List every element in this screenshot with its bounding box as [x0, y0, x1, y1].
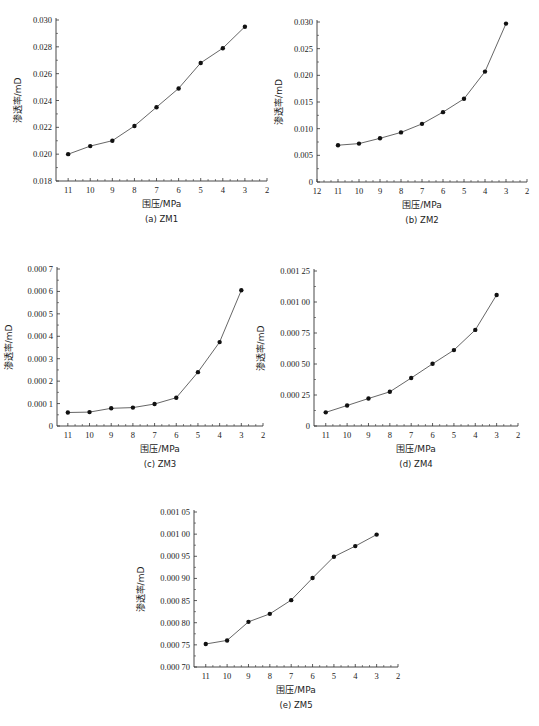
data-point	[289, 598, 293, 602]
x-tick-label: 7	[152, 430, 156, 440]
chart-caption: (d) ZM4	[399, 459, 432, 469]
chart-caption: (a) ZM1	[145, 214, 178, 224]
data-point	[504, 21, 508, 25]
y-tick-label: 0.030	[294, 17, 313, 27]
data-point	[399, 130, 403, 134]
x-tick-label: 4	[483, 186, 488, 196]
x-tick-label: 8	[268, 671, 272, 681]
x-tick-label: 3	[495, 430, 499, 440]
data-point	[217, 340, 221, 344]
data-point	[310, 576, 314, 580]
x-tick-label: 2	[261, 430, 265, 440]
x-tick-label: 9	[366, 430, 370, 440]
y-tick-label: 0.024	[33, 96, 53, 106]
x-tick-label: 8	[388, 430, 392, 440]
series-line	[68, 27, 245, 155]
chart-d: 00.000 250.000 500.000 750.001 000.001 2…	[255, 266, 520, 469]
y-tick-label: 0.026	[33, 69, 52, 79]
data-point	[88, 144, 92, 148]
x-axis-title: 围压/MPa	[276, 685, 315, 695]
x-tick-label: 11	[64, 430, 72, 440]
x-axis-title: 围压/MPa	[140, 444, 179, 454]
data-point	[441, 110, 445, 114]
x-tick-label: 2	[265, 185, 269, 195]
series-line	[326, 295, 497, 413]
x-tick-label: 6	[441, 186, 445, 196]
y-tick-label: 0	[306, 421, 310, 431]
x-tick-label: 4	[221, 185, 226, 195]
y-axis-title: 渗透率/mD	[3, 325, 14, 371]
data-point	[221, 46, 225, 50]
data-point	[378, 136, 382, 140]
data-point	[199, 61, 203, 65]
y-tick-label: 0	[49, 421, 53, 431]
data-point	[66, 152, 70, 156]
y-axis-title: 渗透率/mD	[135, 567, 146, 613]
data-point	[452, 348, 456, 352]
y-tick-label: 0.000 5	[28, 309, 54, 319]
y-axis-title: 渗透率/mD	[255, 326, 266, 372]
x-tick-label: 5	[452, 430, 456, 440]
x-tick-label: 3	[243, 185, 247, 195]
data-point	[246, 620, 250, 624]
x-tick-label: 12	[313, 186, 322, 196]
data-point	[357, 141, 361, 145]
y-tick-label: 0.001 05	[160, 507, 190, 517]
x-tick-label: 10	[223, 671, 232, 681]
data-point	[409, 376, 413, 380]
x-tick-label: 9	[109, 430, 113, 440]
x-tick-label: 11	[202, 671, 210, 681]
y-tick-label: 0.000 80	[160, 618, 190, 628]
y-tick-label: 0.000 95	[160, 551, 190, 561]
series-line	[206, 535, 377, 644]
x-tick-label: 11	[64, 185, 72, 195]
x-tick-label: 6	[430, 430, 434, 440]
data-point	[110, 139, 114, 143]
chart-caption: (e) ZM5	[279, 700, 312, 710]
x-tick-label: 3	[375, 671, 379, 681]
data-point	[388, 390, 392, 394]
x-tick-label: 8	[131, 430, 135, 440]
x-tick-label: 4	[218, 430, 223, 440]
data-point	[473, 328, 477, 332]
data-point	[462, 97, 466, 101]
x-tick-label: 6	[176, 185, 180, 195]
data-point	[494, 293, 498, 297]
data-point	[239, 288, 243, 292]
data-point	[132, 124, 136, 128]
y-tick-label: 0.000 90	[160, 573, 190, 583]
data-point	[345, 403, 349, 407]
x-tick-label: 9	[378, 186, 382, 196]
x-tick-label: 5	[462, 186, 466, 196]
x-tick-label: 7	[289, 671, 293, 681]
x-axis-title: 围压/MPa	[142, 199, 181, 209]
y-tick-label: 0.000 3	[28, 354, 54, 364]
y-tick-label: 0.028	[33, 42, 52, 52]
y-tick-label: 0.020	[33, 149, 52, 159]
y-tick-label: 0.000 1	[28, 399, 54, 409]
chart-e: 0.000 700.000 750.000 800.000 850.000 90…	[135, 507, 400, 710]
data-point	[196, 370, 200, 374]
data-point	[324, 410, 328, 414]
x-tick-label: 11	[322, 430, 330, 440]
x-tick-label: 3	[239, 430, 243, 440]
x-tick-label: 6	[174, 430, 178, 440]
x-tick-label: 2	[516, 430, 520, 440]
x-tick-label: 10	[355, 186, 364, 196]
chart-caption: (b) ZM2	[405, 215, 438, 225]
x-axis-title: 围压/MPa	[396, 444, 435, 454]
y-tick-label: 0.010	[294, 124, 313, 134]
x-tick-label: 10	[343, 430, 352, 440]
series-line	[68, 290, 242, 412]
data-point	[332, 555, 336, 559]
x-tick-label: 3	[504, 186, 508, 196]
x-tick-label: 2	[525, 186, 529, 196]
x-tick-label: 9	[110, 185, 114, 195]
x-tick-label: 8	[132, 185, 136, 195]
y-tick-label: 0.000 50	[280, 359, 310, 369]
figure-canvas: 0.0180.0200.0220.0240.0260.0280.03011109…	[0, 0, 539, 726]
y-tick-label: 0.030	[33, 15, 52, 25]
x-tick-label: 2	[396, 671, 400, 681]
data-point	[225, 638, 229, 642]
y-axis-title: 渗透率/mD	[273, 79, 284, 125]
